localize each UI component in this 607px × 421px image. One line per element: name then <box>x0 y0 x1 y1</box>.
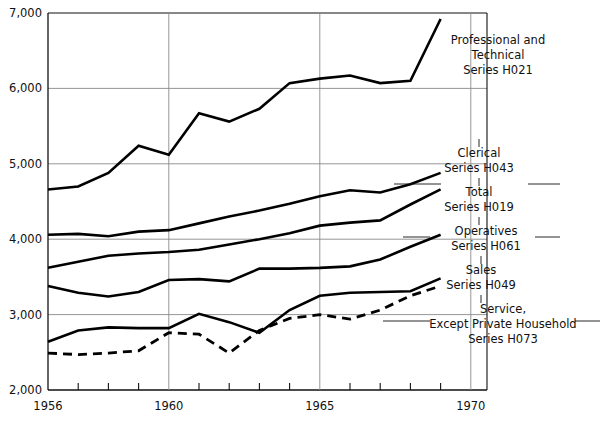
x-tick-label-1965: 1965 <box>305 399 334 413</box>
chart-container: 2,0003,0004,0005,0006,0007,000 195619601… <box>0 0 607 421</box>
line-chart: 2,0003,0004,0005,0006,0007,000 195619601… <box>0 0 607 421</box>
y-tick-label-3000: 3,000 <box>9 308 42 322</box>
x-tick-label-1956: 1956 <box>33 399 62 413</box>
y-tick-label-4000: 4,000 <box>9 232 42 246</box>
y-tick-label-7000: 7,000 <box>9 6 42 20</box>
annotation-H061: OperativesSeries H061 <box>451 224 521 253</box>
y-tick-label-2000: 2,000 <box>9 383 42 397</box>
y-tick-label-6000: 6,000 <box>9 81 42 95</box>
x-tick-label-1960: 1960 <box>154 399 183 413</box>
x-tick-label-1970: 1970 <box>456 399 485 413</box>
y-tick-label-5000: 5,000 <box>9 157 42 171</box>
